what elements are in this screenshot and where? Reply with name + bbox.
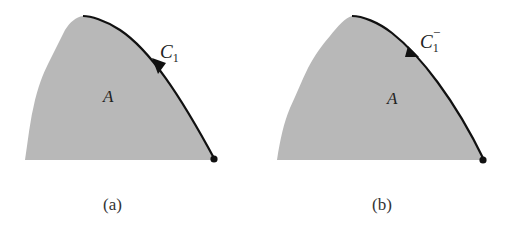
region-b-shape — [277, 16, 484, 160]
curve-label-a: C1 — [160, 41, 179, 65]
diagram-canvas: C1 A (a) C1 − A (b) — [0, 0, 506, 228]
panel-b: C1 − A (b) — [277, 16, 487, 214]
caption-a: (a) — [103, 195, 122, 214]
endpoint-dot — [210, 155, 217, 162]
curve-superscript-b: − — [433, 25, 440, 40]
caption-b: (b) — [372, 195, 392, 214]
region-label-a: A — [102, 87, 114, 106]
region-a-shape — [25, 16, 215, 160]
endpoint-dot — [479, 156, 486, 163]
region-label-b: A — [386, 89, 398, 108]
panel-a: C1 A (a) — [25, 16, 218, 214]
